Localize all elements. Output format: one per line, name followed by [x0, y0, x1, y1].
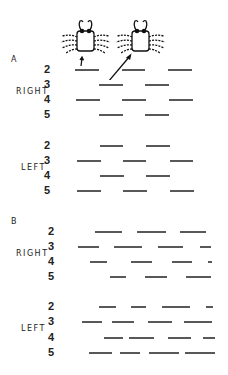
crab-icon [108, 21, 165, 80]
crab-illustrations [0, 0, 228, 80]
side-label-left: LEFT [21, 324, 46, 333]
crab-icon [61, 21, 110, 66]
side-label-right: RIGHT [16, 249, 49, 258]
leg-number: 2 [48, 300, 54, 312]
leg-number: 4 [48, 331, 54, 343]
leg-number: 5 [48, 270, 54, 282]
leg-number: 3 [44, 78, 50, 90]
leg-number: 2 [44, 63, 50, 75]
section-label: A [11, 55, 16, 64]
leg-number: 5 [44, 108, 50, 120]
leg-number: 5 [44, 184, 50, 196]
gait-diagram: ARIGHT2345LEFT2345BRIGHT2345LEFT2345 [0, 0, 228, 375]
leg-number: 4 [48, 255, 54, 267]
leg-number: 3 [48, 315, 54, 327]
leg-number: 4 [44, 169, 50, 181]
leg-number: 5 [48, 346, 54, 358]
leg-number: 3 [44, 154, 50, 166]
section-label: B [11, 217, 17, 226]
leg-number: 4 [44, 93, 50, 105]
leg-number: 2 [48, 225, 54, 237]
leg-number: 3 [48, 240, 54, 252]
leg-number: 2 [44, 139, 50, 151]
side-label-left: LEFT [21, 163, 46, 172]
